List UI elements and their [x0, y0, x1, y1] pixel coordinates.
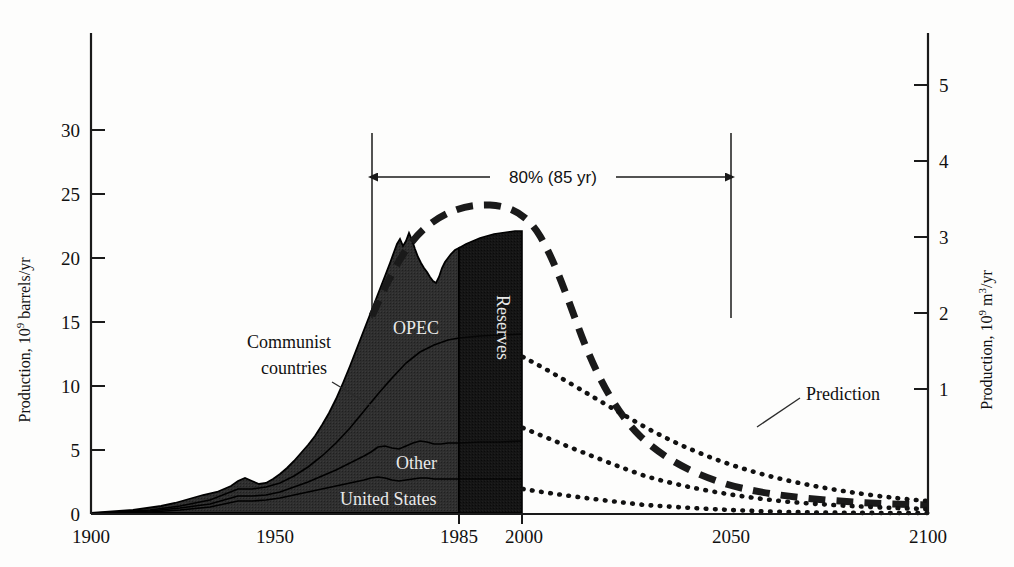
x-label-1985: 1985	[440, 526, 478, 547]
right-label-4: 4	[939, 151, 949, 172]
left-tick-labels: 30 25 20 15 10 5 0	[61, 120, 80, 525]
left-axis-title-group: Production, 109 barrels/yr	[14, 257, 34, 423]
annotation-opec: OPEC	[393, 318, 439, 338]
right-label-2: 2	[939, 303, 949, 324]
annotation-other: Other	[396, 453, 437, 473]
right-axis-title-group: Production, 109 m3/yr	[976, 270, 996, 410]
dotted-curve-upper	[523, 357, 928, 501]
chart-root: 80% (85 yr)	[0, 0, 1014, 567]
x-label-1900: 1900	[72, 526, 110, 547]
left-label-30: 30	[61, 120, 80, 141]
right-label-5: 5	[939, 75, 949, 96]
dotted-curve-middle	[523, 428, 928, 509]
x-label-1950: 1950	[256, 526, 294, 547]
right-axis-title: Production, 109 m3/yr	[976, 270, 996, 410]
annotation-united-states: United States	[340, 489, 437, 509]
x-label-2000: 2000	[505, 526, 543, 547]
left-label-0: 0	[71, 504, 81, 525]
left-label-25: 25	[61, 184, 80, 205]
annotation-reserves: Reserves	[493, 295, 513, 360]
left-label-10: 10	[61, 376, 80, 397]
left-axis-title: Production, 109 barrels/yr	[14, 257, 34, 423]
right-label-3: 3	[939, 227, 949, 248]
left-label-20: 20	[61, 248, 80, 269]
annotation-communist-line1: Communist	[247, 332, 331, 352]
x-label-2050: 2050	[712, 526, 750, 547]
annotation-prediction-leader	[757, 398, 800, 427]
reserves-band	[459, 231, 522, 513]
x-label-2100: 2100	[909, 526, 947, 547]
x-tick-labels: 1900 1950 1985 2000 2050 2100	[72, 526, 947, 547]
right-label-1: 1	[939, 379, 949, 400]
annotation-prediction: Prediction	[806, 384, 880, 404]
right-tick-labels: 5 4 3 2 1	[939, 75, 949, 400]
span-label: 80% (85 yr)	[509, 168, 597, 187]
left-label-5: 5	[71, 440, 81, 461]
annotation-communist-line2: countries	[261, 358, 327, 378]
oil-production-chart: 80% (85 yr)	[0, 0, 1014, 567]
left-label-15: 15	[61, 312, 80, 333]
